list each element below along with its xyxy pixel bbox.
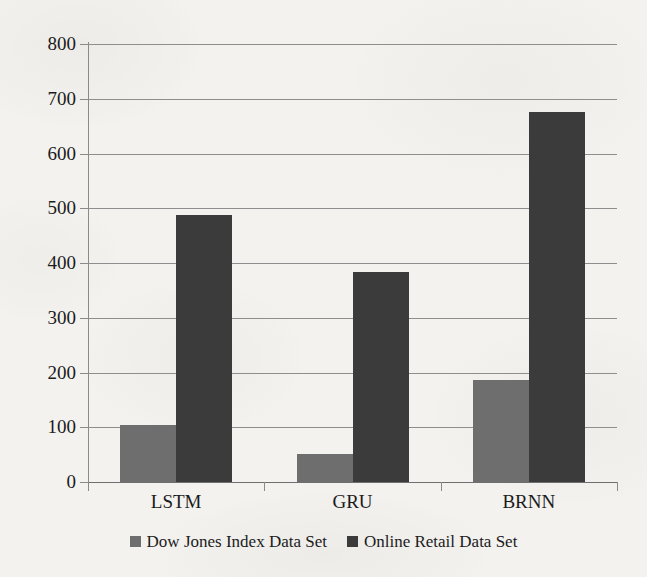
y-axis-tick-100	[80, 427, 88, 428]
y-axis-tick-400	[80, 263, 88, 264]
bar-chart: 8007006005004003002001000 LSTMGRUBRNN Do…	[0, 0, 647, 577]
x-axis-tick-1	[264, 482, 265, 491]
y-axis-label-700: 700	[0, 89, 76, 108]
x-axis-label-gru: GRU	[264, 492, 440, 511]
gridline-800	[88, 44, 617, 45]
y-axis-tick-500	[80, 208, 88, 209]
y-axis-label-400: 400	[0, 253, 76, 272]
bar-brnn-series-2	[529, 112, 585, 482]
y-axis-label-300: 300	[0, 308, 76, 327]
bar-brnn-series-1	[473, 380, 529, 482]
legend-swatch-online-retail	[347, 536, 358, 547]
y-axis-label-0: 0	[0, 472, 76, 491]
axis-baseline	[88, 482, 617, 483]
y-axis-tick-300	[80, 318, 88, 319]
y-axis-label-100: 100	[0, 417, 76, 436]
x-axis-tick-start	[88, 482, 89, 491]
x-axis-label-brnn: BRNN	[441, 492, 617, 511]
y-axis-tick-600	[80, 154, 88, 155]
bar-lstm-series-2	[176, 215, 232, 482]
x-axis-tick-end	[617, 482, 618, 491]
x-axis-tick-2	[441, 482, 442, 491]
chart-legend: Dow Jones Index Data SetOnline Retail Da…	[0, 533, 647, 550]
legend-label-2: Online Retail Data Set	[364, 533, 517, 550]
bar-gru-series-1	[297, 454, 353, 482]
gridline-700	[88, 99, 617, 100]
y-axis-tick-200	[80, 373, 88, 374]
bar-lstm-series-1	[120, 425, 176, 482]
legend-item-1[interactable]: Dow Jones Index Data Set	[130, 533, 327, 550]
legend-item-2[interactable]: Online Retail Data Set	[347, 533, 517, 550]
y-axis-tick-0	[80, 482, 88, 483]
plot-area	[88, 44, 617, 482]
y-axis-tick-700	[80, 99, 88, 100]
legend-swatch-dow-jones	[130, 536, 141, 547]
legend-label-1: Dow Jones Index Data Set	[147, 533, 327, 550]
y-axis-tick-800	[80, 44, 88, 45]
y-axis-label-500: 500	[0, 198, 76, 217]
bar-gru-series-2	[353, 272, 409, 482]
x-axis-label-lstm: LSTM	[88, 492, 264, 511]
y-axis-label-800: 800	[0, 34, 76, 53]
y-axis-label-200: 200	[0, 363, 76, 382]
y-axis-label-600: 600	[0, 144, 76, 163]
